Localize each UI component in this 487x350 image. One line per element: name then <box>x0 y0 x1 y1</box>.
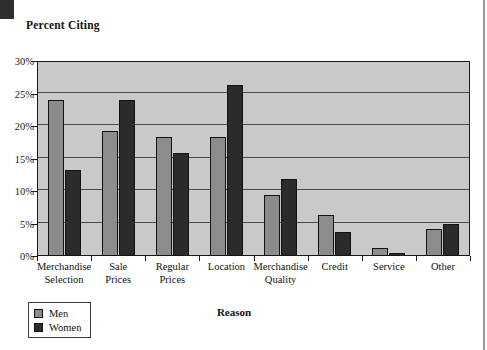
bar-women <box>173 153 189 256</box>
bar-men <box>48 100 64 256</box>
bar-men <box>318 215 334 256</box>
x-tick-label: Other <box>409 261 477 274</box>
bar-men <box>102 131 118 256</box>
legend-swatch-men <box>34 309 43 318</box>
chart-legend: MenWomen <box>28 302 91 338</box>
x-axis-labels: Merchandise SelectionSale PricesRegular … <box>37 261 470 295</box>
y-tick-label: 25% <box>0 88 34 99</box>
y-tick-label: 20% <box>0 121 34 132</box>
y-tick-label: 0% <box>0 251 34 262</box>
page-corner-mark <box>0 0 14 19</box>
page-right-rule <box>483 0 485 350</box>
bar-women <box>65 170 81 256</box>
bar-women <box>335 232 351 256</box>
bars-layer <box>37 61 470 256</box>
bar-men <box>372 248 388 256</box>
bar-women <box>119 100 135 256</box>
chart-title: Percent Citing <box>26 19 100 31</box>
legend-label: Men <box>49 308 68 319</box>
y-tick-label: 10% <box>0 186 34 197</box>
bar-women <box>443 224 459 257</box>
y-tick-label: 5% <box>0 218 34 229</box>
bar-women <box>281 179 297 256</box>
legend-item-women: Women <box>34 320 81 334</box>
legend-item-men: Men <box>34 306 81 320</box>
bar-women <box>227 85 243 256</box>
y-tick-label: 30% <box>0 56 34 67</box>
bar-men <box>156 137 172 256</box>
bar-men <box>210 137 226 256</box>
bar-men <box>426 229 442 256</box>
bar-men <box>264 195 280 256</box>
legend-label: Women <box>49 322 81 333</box>
y-tick-label: 15% <box>0 153 34 164</box>
legend-swatch-women <box>34 323 43 332</box>
